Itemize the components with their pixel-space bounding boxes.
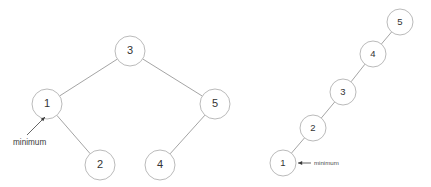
tree-edge-r-n1-to-r-n2: [291, 138, 304, 153]
node-label-2: 2: [97, 158, 103, 170]
tree-edge-r-n2-to-r-n3: [321, 102, 334, 118]
minimum-arrow-head: [298, 161, 302, 165]
minimum-label: minimum: [314, 159, 339, 166]
minimum-annotation: minimum: [13, 117, 46, 147]
edge-group: [57, 59, 205, 154]
tree-node-2[interactable]: 2: [300, 115, 326, 141]
node-label-1: 1: [44, 97, 50, 109]
tree-node-3[interactable]: 3: [115, 36, 145, 66]
node-label-5: 5: [397, 16, 402, 27]
node-label-5: 5: [212, 97, 218, 109]
tree-edge-l-n3-to-l-n5: [143, 59, 203, 96]
node-label-3: 3: [340, 86, 345, 97]
minimum-label: minimum: [13, 138, 46, 147]
tree-edge-r-n4-to-r-n5: [381, 32, 391, 44]
tree-node-2[interactable]: 2: [85, 150, 115, 180]
tree-edge-r-n3-to-r-n4: [351, 64, 365, 82]
node-label-1: 1: [280, 157, 285, 168]
tree-edge-l-n1-to-l-n2: [57, 115, 90, 153]
tree-edge-l-n5-to-l-n4: [170, 115, 205, 154]
tree-edge-l-n3-to-l-n1: [60, 59, 118, 96]
diagram-canvas: 31524minimum12345minimum: [0, 0, 431, 187]
tree-node-1[interactable]: 1: [270, 150, 296, 176]
node-label-2: 2: [310, 122, 315, 133]
tree-node-4[interactable]: 4: [360, 41, 386, 67]
tree-node-3[interactable]: 3: [330, 79, 356, 105]
tree-node-1[interactable]: 1: [32, 89, 62, 119]
minimum-annotation: minimum: [298, 159, 339, 166]
tree-node-4[interactable]: 4: [145, 150, 175, 180]
diagram-balanced-binary-search-tree: 31524minimum: [13, 36, 230, 180]
figure-root: 31524minimum12345minimum: [0, 0, 431, 187]
node-label-4: 4: [370, 48, 375, 59]
node-label-3: 3: [127, 44, 133, 56]
diagram-right-skewed-linear-tree: 12345minimum: [270, 9, 413, 176]
node-label-4: 4: [157, 158, 163, 170]
tree-node-5[interactable]: 5: [200, 89, 230, 119]
tree-node-5[interactable]: 5: [387, 9, 413, 35]
